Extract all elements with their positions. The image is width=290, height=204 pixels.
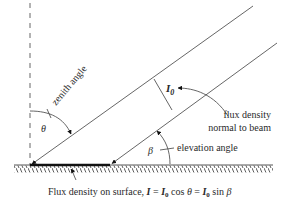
- ground-hatching: [14, 166, 273, 173]
- flux-normal-label-line2: normal to beam: [208, 122, 271, 133]
- beta-label: β: [147, 145, 153, 156]
- flux-normal-label-line1: flux density: [224, 109, 272, 120]
- beta-arc: [157, 131, 170, 164]
- I0-label: I0: [165, 82, 174, 97]
- I0-pointer-arrow: [178, 88, 228, 116]
- elevation-angle-label: elevation angle: [177, 142, 238, 153]
- beta-tick: [160, 148, 174, 150]
- solar-flux-diagram: zenith angle θ I0 flux density normal to…: [0, 0, 290, 204]
- surface-flux-caption: Flux density on surface, I = I0 cos θ = …: [48, 186, 232, 199]
- zenith-angle-label: zenith angle: [49, 63, 89, 108]
- theta-arc: [30, 111, 71, 134]
- theta-label: θ: [41, 123, 46, 134]
